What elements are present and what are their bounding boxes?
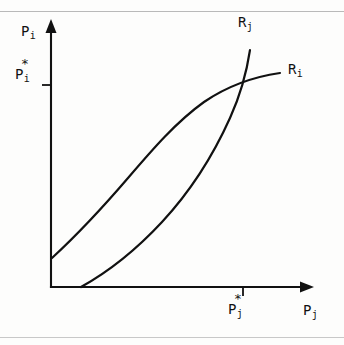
curve-ri [52, 73, 280, 258]
x-axis-arrow-icon [300, 282, 314, 293]
y-axis-equilibrium-label: * Pi [15, 60, 30, 86]
curve-rj [81, 50, 250, 287]
x-axis-label-subscript: j [312, 309, 318, 320]
x-equilibrium-base-row: Pj [228, 302, 243, 321]
curve-label-ri: Ri [288, 62, 303, 79]
curve-label-rj-subscript: j [247, 21, 253, 32]
figure-canvas: Pi * Pi * Pj Pj Rj Ri [0, 0, 344, 345]
y-axis-label-subscript: i [30, 30, 36, 41]
curve-label-ri-base: R [288, 61, 296, 77]
x-axis-label-base: P [303, 302, 311, 318]
reaction-function-plot [0, 0, 344, 345]
curve-label-rj: Rj [238, 15, 253, 32]
curve-label-rj-base: R [238, 14, 246, 30]
x-equilibrium-base: P [228, 301, 236, 317]
y-axis-label: Pi [21, 24, 36, 41]
y-equilibrium-subscript: i [24, 73, 30, 84]
x-axis-label: Pj [303, 303, 318, 320]
y-axis-arrow-icon [46, 19, 57, 33]
x-equilibrium-subscript: j [237, 308, 243, 319]
y-equilibrium-base: P [15, 66, 23, 82]
y-axis-label-base: P [21, 23, 29, 39]
curve-label-ri-subscript: i [297, 68, 303, 79]
y-equilibrium-base-row: Pi [15, 67, 30, 86]
x-axis-equilibrium-label: * Pj [228, 295, 243, 321]
